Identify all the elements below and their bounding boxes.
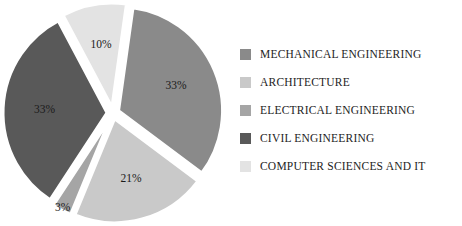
pie-svg: 33%21%3%33%10% (0, 0, 232, 226)
legend-item-label: ELECTRICAL ENGINEERING (260, 104, 415, 116)
pie-plot-area: 33%21%3%33%10% (0, 0, 232, 226)
legend-item[interactable]: MECHANICAL ENGINEERING (240, 40, 462, 68)
legend-item[interactable]: ELECTRICAL ENGINEERING (240, 96, 462, 124)
chart-legend: MECHANICAL ENGINEERINGARCHITECTUREELECTR… (240, 40, 462, 180)
legend-item-label: CIVIL ENGINEERING (260, 132, 374, 144)
legend-item[interactable]: ARCHITECTURE (240, 68, 462, 96)
legend-color-swatch (240, 161, 251, 172)
pie-slice-label: 33% (34, 103, 56, 115)
pie-slice-label: 3% (55, 201, 71, 213)
legend-color-swatch (240, 133, 251, 144)
legend-color-swatch (240, 49, 251, 60)
legend-item[interactable]: CIVIL ENGINEERING (240, 124, 462, 152)
pie-slice-label: 21% (121, 172, 143, 184)
legend-item-label: MECHANICAL ENGINEERING (260, 48, 421, 60)
legend-item[interactable]: COMPUTER SCIENCES AND IT (240, 152, 462, 180)
legend-color-swatch (240, 77, 251, 88)
legend-item-label: ARCHITECTURE (260, 76, 350, 88)
pie-chart-figure: 33%21%3%33%10% MECHANICAL ENGINEERINGARC… (0, 0, 462, 226)
legend-item-label: COMPUTER SCIENCES AND IT (260, 160, 426, 172)
pie-slice-label: 33% (166, 79, 188, 91)
legend-color-swatch (240, 105, 251, 116)
pie-slice-label: 10% (91, 38, 113, 50)
